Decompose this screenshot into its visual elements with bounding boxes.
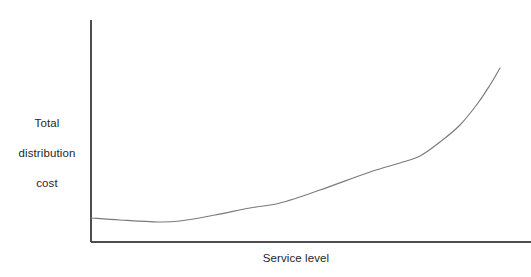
- y-axis-label-line-3: cost: [8, 176, 86, 191]
- chart-figure: Total distribution cost Service level: [0, 0, 531, 277]
- total-distribution-cost-curve: [91, 68, 500, 222]
- x-axis-label: Service level: [91, 251, 501, 266]
- y-axis-label-line-1: Total: [8, 116, 86, 131]
- y-axis-label: Total distribution cost: [8, 101, 86, 206]
- y-axis-label-line-2: distribution: [8, 146, 86, 161]
